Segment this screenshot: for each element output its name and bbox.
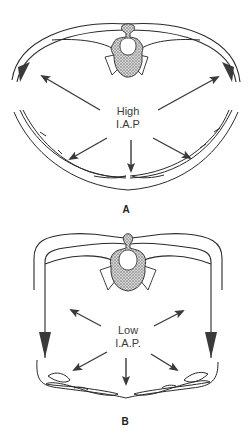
iap-abbreviation: I.A.P.: [98, 337, 158, 350]
figure-a-high-iap: High I.A.P A: [0, 0, 252, 220]
vertebra-icon: [100, 234, 156, 291]
iap-abbreviation: I.A.P: [98, 118, 158, 131]
pressure-label-a: High I.A.P: [98, 105, 158, 131]
front-wall: [37, 360, 218, 398]
pressure-level-text: High: [98, 105, 158, 118]
pressure-label-b: Low I.A.P.: [98, 324, 158, 350]
pressure-level-text: Low: [98, 324, 158, 337]
panel-label-a: A: [116, 204, 136, 215]
vertebra-icon: [105, 24, 148, 77]
figure-b-low-iap: Low I.A.P. B: [0, 220, 252, 443]
panel-label-b: B: [115, 416, 135, 427]
